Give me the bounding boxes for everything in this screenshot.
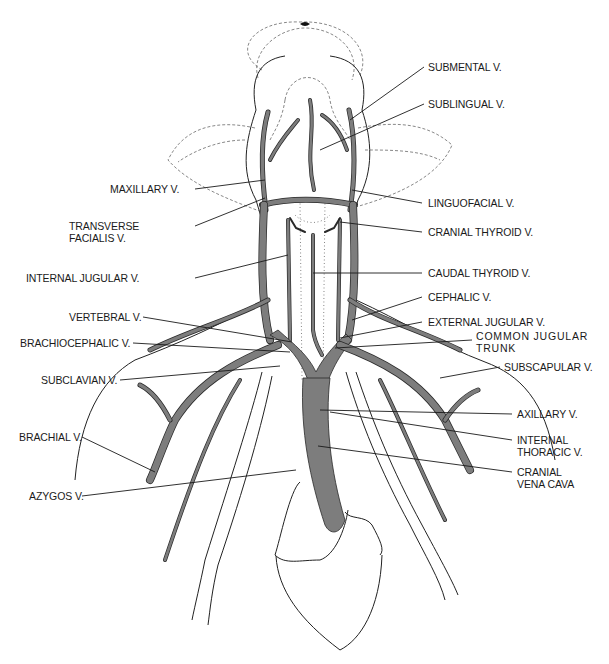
label-linguofacial-vein: LINGUOFACIAL V. <box>428 197 514 209</box>
label-common-jugular-trunk-line1: COMMON JUGULAR <box>476 330 588 342</box>
label-submental-vein: SUBMENTAL V. <box>428 61 502 73</box>
label-brachiocephalic-vein: BRACHIOCEPHALIC V. <box>20 337 130 349</box>
label-internal-thoracic-vein-line1: INTERNAL <box>517 434 568 446</box>
nose-icon <box>300 22 310 26</box>
label-sublingual-vein: SUBLINGUAL V. <box>428 98 505 110</box>
label-vertebral-vein: VERTEBRAL V. <box>69 311 142 323</box>
veins <box>140 100 478 560</box>
label-cranial-vena-cava-line2: VENA CAVA <box>517 478 574 490</box>
label-axillary-vein: AXILLARY V. <box>517 408 578 420</box>
label-caudal-thyroid-vein: CAUDAL THYROID V. <box>428 267 530 279</box>
label-internal-jugular-vein: INTERNAL JUGULAR V. <box>26 272 139 284</box>
label-transverse-facialis-vein-line1: TRANSVERSE <box>69 220 139 232</box>
label-azygos-vein: AZYGOS V. <box>29 490 84 502</box>
label-common-jugular-trunk-line2: TRUNK <box>476 342 516 354</box>
label-cranial-thyroid-vein: CRANIAL THYROID V. <box>428 226 533 238</box>
label-transverse-facialis-vein-line2: FACIALIS V. <box>69 232 126 244</box>
label-internal-thoracic-vein-line2: THORACIC V. <box>517 446 583 458</box>
label-subclavian-vein: SUBCLAVIAN V. <box>41 374 117 386</box>
label-maxillary-vein: MAXILLARY V. <box>110 183 179 195</box>
label-subscapular-vein: SUBSCAPULAR V. <box>504 361 593 373</box>
label-cranial-vena-cava-line1: CRANIAL <box>517 466 562 478</box>
label-cephalic-vein: CEPHALIC V. <box>428 291 491 303</box>
label-brachial-vein: BRACHIAL V. <box>19 431 82 443</box>
label-external-jugular-vein: EXTERNAL JUGULAR V. <box>428 316 545 328</box>
